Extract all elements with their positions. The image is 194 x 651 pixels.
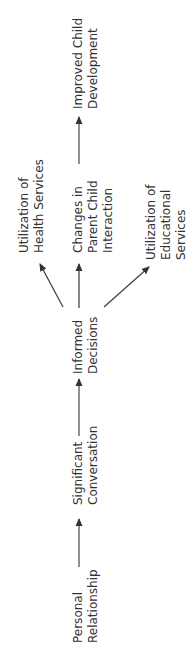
node-label-line: Relationship: [86, 569, 100, 643]
node-label-line: Health Services: [32, 159, 46, 253]
arrow-decisions-to-education: [104, 267, 149, 307]
node-label-line: Changes in: [71, 186, 85, 253]
node-improved-development: Improved Child Development: [71, 18, 100, 109]
arrow-decisions-to-health: [40, 264, 63, 307]
node-educational-services: Utilization of Educational Services: [144, 184, 188, 260]
node-label-line: Services: [174, 209, 188, 260]
node-health-services: Utilization of Health Services: [17, 159, 46, 253]
node-significant-conversation: Significant Conversation: [71, 426, 100, 505]
node-label-line: Development: [86, 28, 100, 109]
node-label-line: Utilization of: [144, 184, 158, 260]
node-parent-child-interaction: Changes in Parent Child Interaction: [71, 181, 115, 254]
node-label-line: Educational: [159, 190, 173, 260]
flow-diagram: Personal Relationship Significant Conver…: [0, 0, 194, 651]
node-label-line: Personal: [71, 592, 85, 643]
node-label-line: Utilization of: [17, 177, 31, 253]
node-personal-relationship: Personal Relationship: [71, 569, 100, 643]
node-label-line: Conversation: [86, 426, 100, 505]
node-label-line: Informed: [71, 320, 85, 374]
node-label-line: Improved Child: [71, 18, 85, 109]
node-label-line: Interaction: [101, 188, 115, 253]
node-label-line: Parent Child: [86, 181, 100, 254]
node-label-line: Significant: [71, 441, 85, 505]
node-label-line: Decisions: [86, 317, 100, 374]
node-informed-decisions: Informed Decisions: [71, 317, 100, 374]
